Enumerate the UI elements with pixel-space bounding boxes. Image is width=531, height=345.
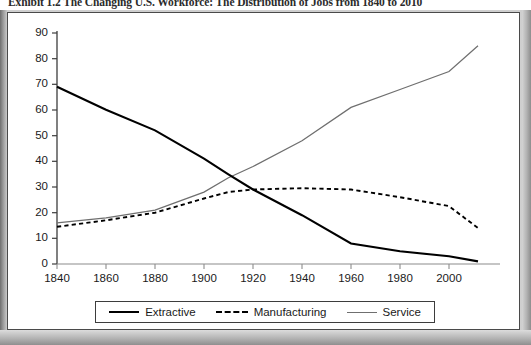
x-tick-label-1920: 1920 xyxy=(231,272,275,284)
y-tick-label-70: 70 xyxy=(22,77,48,89)
y-tick-label-10: 10 xyxy=(22,231,48,243)
x-tick-label-1880: 1880 xyxy=(133,272,177,284)
y-tick-label-20: 20 xyxy=(22,206,48,218)
legend-item-manufacturing[interactable]: Manufacturing xyxy=(216,306,327,318)
x-tick-label-1980: 1980 xyxy=(378,272,422,284)
x-tick-label-2000: 2000 xyxy=(427,272,471,284)
legend-item-service[interactable]: Service xyxy=(347,306,421,318)
chart-legend: Extractive Manufacturing Service xyxy=(95,301,435,323)
x-tick-label-1940: 1940 xyxy=(280,272,324,284)
line-gray-icon xyxy=(347,312,377,313)
page-frame-right-shadow xyxy=(522,10,531,345)
line-dashed-icon xyxy=(216,311,248,313)
x-tick-label-1860: 1860 xyxy=(84,272,128,284)
exhibit-title: Exhibit 1.2 The Changing U.S. Workforce:… xyxy=(8,0,422,8)
y-tick-label-0: 0 xyxy=(22,257,48,269)
x-tick-label-1900: 1900 xyxy=(182,272,226,284)
y-tick-label-40: 40 xyxy=(22,154,48,166)
page-frame-bottom-shadow xyxy=(0,330,531,345)
legend-label-manufacturing: Manufacturing xyxy=(254,306,327,318)
legend-label-service: Service xyxy=(383,306,421,318)
x-tick-label-1840: 1840 xyxy=(35,272,79,284)
legend-item-extractive[interactable]: Extractive xyxy=(109,306,196,318)
legend-label-extractive: Extractive xyxy=(145,306,196,318)
y-tick-label-50: 50 xyxy=(22,129,48,141)
page-frame-left-shadow xyxy=(0,10,7,345)
y-tick-label-60: 60 xyxy=(22,103,48,115)
x-tick-label-1960: 1960 xyxy=(329,272,373,284)
y-tick-label-90: 90 xyxy=(22,26,48,38)
y-tick-label-80: 80 xyxy=(22,52,48,64)
line-solid-icon xyxy=(109,311,139,313)
exhibit-figure: Exhibit 1.2 The Changing U.S. Workforce:… xyxy=(0,0,531,345)
y-tick-label-30: 30 xyxy=(22,180,48,192)
